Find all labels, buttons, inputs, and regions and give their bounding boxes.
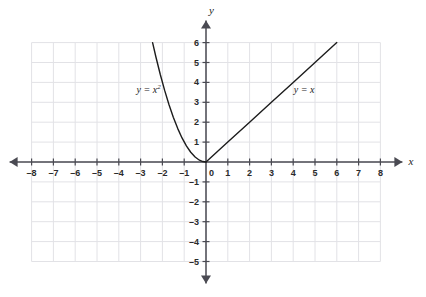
x-tick-label: 1	[216, 169, 240, 178]
x-tick-label: –8	[20, 169, 44, 178]
y-axis-arrow-up	[201, 21, 211, 29]
x-tick-label: 2	[238, 169, 262, 178]
y-tick-label: –4	[176, 238, 199, 247]
parabola-curve-label: y = x2	[137, 85, 161, 95]
coordinate-plane-figure: –8–7–6–5–4–3–2–1012345678 123456–1–2–3–4…	[0, 0, 426, 297]
x-tick-label: 7	[347, 169, 371, 178]
x-tick-label: –5	[85, 169, 109, 178]
graph-canvas	[0, 0, 426, 297]
y-tick-label: –5	[176, 258, 199, 267]
x-axis-arrow-left	[10, 157, 18, 167]
y-axis-label: y	[209, 5, 214, 16]
y-tick-label: 3	[178, 98, 199, 107]
y-tick-label: 2	[178, 118, 199, 127]
y-tick-label: 5	[178, 59, 199, 68]
x-tick-label: 8	[368, 169, 392, 178]
y-tick-label: –1	[176, 178, 199, 187]
x-tick-label: –4	[107, 169, 131, 178]
parabola-label-base: y = x	[137, 84, 158, 95]
x-tick-label: 4	[281, 169, 305, 178]
x-tick-label: 3	[259, 169, 283, 178]
y-tick-label: –2	[176, 198, 199, 207]
x-tick-label: 6	[325, 169, 349, 178]
x-tick-label: –7	[41, 169, 65, 178]
x-tick-label: 5	[303, 169, 327, 178]
y-tick-label: –3	[176, 218, 199, 227]
x-axis-label: x	[408, 156, 413, 167]
parabola-label-exponent: 2	[157, 83, 161, 91]
y-tick-label: 4	[178, 78, 199, 87]
x-axis-arrow-right	[394, 157, 402, 167]
y-tick-label: 1	[178, 138, 199, 147]
x-tick-label: –3	[129, 169, 153, 178]
line-curve-label: y = x	[294, 85, 315, 95]
x-tick-label: –2	[150, 169, 174, 178]
y-axis-arrow-down	[201, 276, 211, 284]
axes-group	[10, 21, 403, 284]
y-tick-label: 6	[178, 39, 199, 48]
x-tick-label: –6	[63, 169, 87, 178]
